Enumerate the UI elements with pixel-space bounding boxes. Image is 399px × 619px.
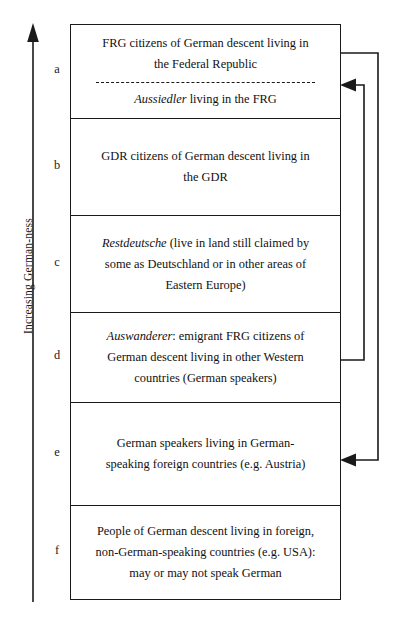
inner-bracket-path xyxy=(341,85,364,360)
box-text-line: Eastern Europe) xyxy=(165,275,245,296)
box-text-line: some as Deutschland or in other areas of xyxy=(105,254,306,275)
row-letter-b: b xyxy=(49,158,65,173)
category-box-b: GDR citizens of German descent living in… xyxy=(71,119,340,216)
box-text-line: may or may not speak German xyxy=(129,563,281,584)
box-text-line: FRG citizens of German descent living in xyxy=(102,33,308,54)
box-text-line: German speakers living in German- xyxy=(117,433,295,454)
arrowhead-into-row-e xyxy=(340,454,356,467)
box-text-line: Restdeutsche (live in land still claimed… xyxy=(102,233,309,254)
box-text-line: speaking foreign countries (e.g. Austria… xyxy=(106,454,306,475)
box-text-line: German descent living in other Western xyxy=(107,347,304,368)
row-letter-e: e xyxy=(49,445,65,460)
box-text-line: GDR citizens of German descent living in xyxy=(101,146,310,167)
axis-label: Increasing German-ness xyxy=(22,176,34,376)
box-text-line: the GDR xyxy=(183,167,227,188)
box-text-line: Auswanderer: emigrant FRG citizens of xyxy=(107,326,305,347)
category-box-e: German speakers living in German-speakin… xyxy=(71,403,340,506)
category-box-c: Restdeutsche (live in land still claimed… xyxy=(71,216,340,313)
arrowhead-into-row-a xyxy=(340,79,356,92)
category-box-a: FRG citizens of German descent living in… xyxy=(71,25,340,119)
outer-bracket-path xyxy=(341,53,378,460)
category-box-a-upper: FRG citizens of German descent living in… xyxy=(83,27,328,82)
row-letter-f: f xyxy=(49,543,65,558)
box-text-line: People of German descent living in forei… xyxy=(97,521,314,542)
german-ness-hierarchy-diagram: Increasing German-ness FRG citizens of G… xyxy=(0,0,399,619)
box-text-line: countries (German speakers) xyxy=(134,368,276,389)
category-box-a-lower: Aussiedler living in the FRG xyxy=(83,83,328,117)
category-box-d: Auswanderer: emigrant FRG citizens ofGer… xyxy=(71,313,340,403)
box-text-line: Aussiedler living in the FRG xyxy=(134,89,277,110)
category-box-f: People of German descent living in forei… xyxy=(71,506,340,599)
box-text-line: non-German-speaking countries (e.g. USA)… xyxy=(96,542,316,563)
box-text-line: the Federal Republic xyxy=(154,54,257,75)
category-stack: FRG citizens of German descent living in… xyxy=(70,24,341,600)
row-letter-c: c xyxy=(49,255,65,270)
row-letter-d: d xyxy=(49,348,65,363)
row-letter-a: a xyxy=(49,62,65,77)
